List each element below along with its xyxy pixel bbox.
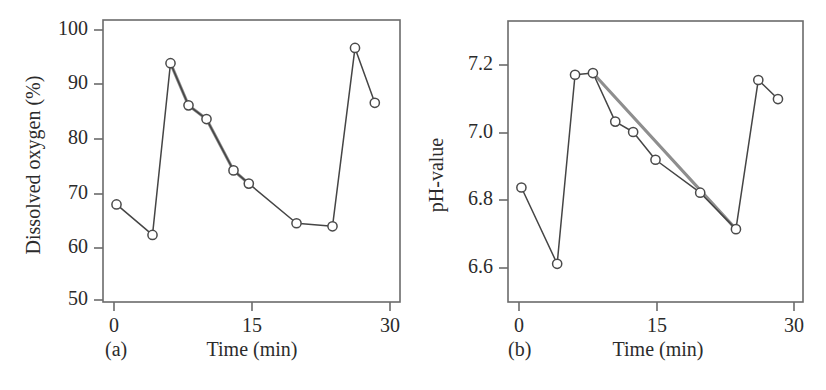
data-polyline [521, 73, 778, 264]
data-point-marker [244, 179, 253, 188]
panel-b-data-line [521, 73, 778, 264]
data-point-marker [651, 155, 660, 164]
data-point-marker [112, 200, 121, 209]
panel-b-data-markers [517, 68, 783, 268]
panel-a-axes [94, 20, 400, 311]
y-tick-label: 100 [58, 17, 88, 39]
panel-a-x-axis-title: Time (min) [207, 338, 298, 361]
data-point-marker [328, 222, 337, 231]
data-point-marker [754, 75, 763, 84]
data-point-marker [611, 117, 620, 126]
x-tick-label: 15 [647, 314, 667, 336]
x-tick-label: 0 [109, 314, 119, 336]
panel-b-trend-line [593, 73, 736, 229]
panel-b: 015307.27.06.86.6 Time (min) (b) pH-valu… [413, 0, 826, 390]
y-tick-label: 50 [68, 287, 88, 309]
panel-a-plot: 015301009080706050 Time (min) (a) Dissol… [0, 0, 413, 390]
data-point-marker [350, 43, 359, 52]
y-tick-label: 7.0 [468, 120, 493, 142]
x-tick-label: 15 [242, 314, 262, 336]
data-point-marker [166, 59, 175, 68]
panel-b-x-axis-title: Time (min) [613, 338, 704, 361]
data-point-marker [229, 166, 238, 175]
data-point-marker [148, 230, 157, 239]
x-tick-label: 30 [784, 314, 804, 336]
panel-a-tick-labels: 015301009080706050 [58, 17, 400, 336]
x-tick-label: 30 [380, 314, 400, 336]
data-point-marker [517, 183, 526, 192]
data-point-marker [202, 114, 211, 123]
panel-a-data-markers [112, 43, 380, 239]
data-point-marker [570, 70, 579, 79]
figure-root: 015301009080706050 Time (min) (a) Dissol… [0, 0, 826, 390]
panel-a-tag: (a) [105, 338, 127, 361]
data-point-marker [696, 188, 705, 197]
plot-frame [103, 20, 400, 302]
data-point-marker [184, 101, 193, 110]
panel-b-axes [499, 21, 803, 311]
data-point-marker [773, 94, 782, 103]
panel-b-tag: (b) [508, 338, 531, 361]
panel-a-y-axis-title: Dissolved oxygen (%) [22, 76, 45, 255]
panel-b-tick-labels: 015307.27.06.86.6 [468, 52, 804, 336]
trend-polyline [593, 73, 736, 229]
y-tick-label: 70 [68, 181, 88, 203]
panel-b-plot: 015307.27.06.86.6 Time (min) (b) pH-valu… [413, 0, 826, 390]
data-point-marker [553, 259, 562, 268]
data-point-marker [588, 68, 597, 77]
panel-a: 015301009080706050 Time (min) (a) Dissol… [0, 0, 413, 390]
data-point-marker [731, 225, 740, 234]
panel-a-data-line [117, 48, 375, 235]
data-point-marker [629, 127, 638, 136]
x-tick-label: 0 [514, 314, 524, 336]
y-tick-label: 6.8 [468, 187, 493, 209]
y-tick-label: 60 [68, 235, 88, 257]
data-polyline [117, 48, 375, 235]
y-tick-label: 7.2 [468, 52, 493, 74]
data-point-marker [292, 219, 301, 228]
y-tick-label: 80 [68, 126, 88, 148]
data-point-marker [370, 98, 379, 107]
panel-b-y-axis-title: pH-value [425, 138, 448, 213]
y-tick-label: 6.6 [468, 255, 493, 277]
y-tick-label: 90 [68, 71, 88, 93]
